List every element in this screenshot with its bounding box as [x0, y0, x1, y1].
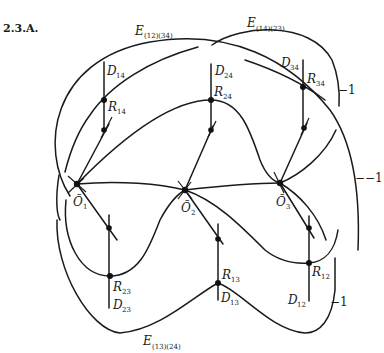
svg-text:(12)(34): (12)(34) [144, 32, 173, 40]
svg-text:14: 14 [116, 72, 125, 80]
svg-text:3: 3 [286, 203, 290, 211]
svg-text:13: 13 [230, 299, 239, 307]
label-d12: D 12 [287, 293, 306, 309]
line-o1-o2 [77, 182, 185, 190]
svg-text:24: 24 [223, 93, 232, 101]
svg-text:E: E [142, 334, 152, 348]
svg-text:R: R [311, 265, 321, 279]
svg-text:1: 1 [83, 203, 87, 211]
svg-text:R: R [107, 100, 117, 114]
label-r24: R 24 [213, 85, 232, 101]
svg-text:12: 12 [297, 301, 306, 309]
self-intersection-middle: −−1 [355, 171, 383, 185]
point-d23-upper [106, 225, 112, 231]
curve-o3-lower [280, 183, 326, 240]
point-r23 [107, 273, 113, 279]
svg-text:E: E [134, 24, 144, 38]
svg-text:13: 13 [231, 276, 240, 284]
curve-o3-upper-right [280, 130, 336, 183]
tick-near-r14 [101, 117, 112, 138]
svg-text:14: 14 [117, 108, 126, 116]
svg-text:R: R [213, 85, 223, 99]
point-r14 [101, 97, 107, 103]
self-intersection-top: −1 [338, 83, 356, 97]
label-r13: R 13 [221, 268, 240, 284]
point-o1 [74, 181, 80, 187]
label-r14: R 14 [107, 100, 126, 116]
svg-text:Õ: Õ [73, 194, 83, 209]
point-d34-lower [301, 125, 307, 131]
svg-text:E: E [246, 16, 256, 30]
point-d13-upper [215, 236, 221, 242]
figure-title: 2.3.A. [3, 22, 38, 35]
svg-text:2: 2 [191, 209, 195, 217]
label-d14: D 14 [106, 64, 125, 80]
curve-left-outer [57, 175, 60, 220]
svg-text:23: 23 [122, 306, 131, 314]
line-o2-o3 [185, 183, 280, 190]
self-intersection-bottom: −1 [330, 295, 348, 309]
line-o1-r23 [77, 184, 117, 240]
point-d14-lower [101, 127, 107, 133]
label-d34: D 34 [280, 56, 299, 72]
curve-e-13-24 [57, 220, 335, 333]
label-r12: R 12 [311, 265, 330, 281]
svg-text:12: 12 [321, 273, 330, 281]
svg-text:24: 24 [224, 72, 233, 80]
blowup-configuration-diagram: 2.3.A. [0, 0, 384, 353]
point-d24-lower [208, 127, 214, 133]
point-r13 [215, 280, 221, 286]
svg-text:R: R [306, 72, 316, 86]
curve-through-r14 [65, 47, 198, 172]
svg-text:R: R [221, 268, 231, 282]
svg-text:(14)(23): (14)(23) [256, 25, 285, 33]
label-r34: R 34 [306, 72, 325, 88]
curve-o2-lower-right [185, 190, 338, 263]
svg-text:(13)(24): (13)(24) [152, 343, 181, 351]
label-r23: R 23 [112, 280, 131, 296]
label-d23: D 23 [112, 298, 131, 314]
point-d12-upper [306, 225, 312, 231]
point-o2 [182, 187, 188, 193]
svg-text:Õ: Õ [276, 194, 286, 209]
label-e-13-24: E (13)(24) [142, 334, 181, 351]
point-o3 [277, 180, 283, 186]
svg-text:23: 23 [122, 288, 131, 296]
point-r34 [300, 84, 306, 90]
svg-text:Õ: Õ [181, 200, 191, 215]
svg-text:R: R [112, 280, 122, 294]
svg-text:34: 34 [316, 80, 325, 88]
label-e-12-34: E (12)(34) [134, 24, 173, 40]
svg-text:34: 34 [290, 64, 299, 72]
label-d24: D 24 [214, 64, 233, 80]
